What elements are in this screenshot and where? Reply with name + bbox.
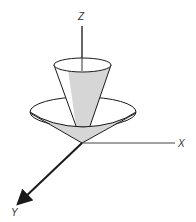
z-axis-label: Z [77, 11, 85, 22]
y-axis-label: Y [11, 207, 19, 218]
cone-diagram: Z X Y [0, 0, 196, 222]
x-axis-label: X [177, 138, 185, 149]
y-axis [22, 143, 82, 200]
